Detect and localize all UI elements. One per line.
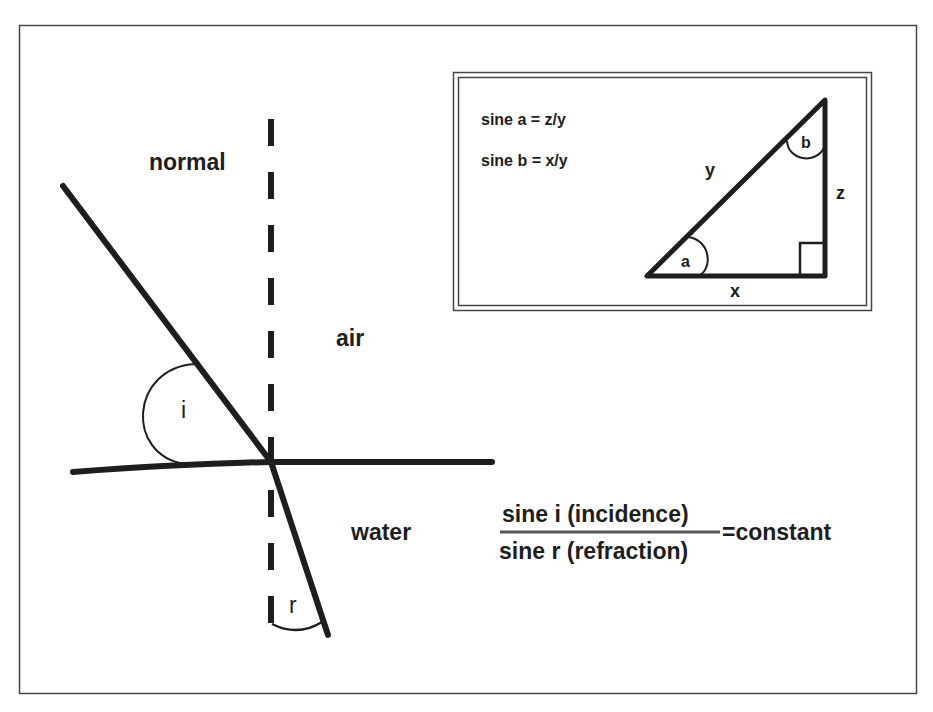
angle-i-arc	[143, 364, 195, 464]
triangle-label-a: a	[681, 253, 690, 270]
formula-equals: =constant	[722, 519, 832, 545]
label-normal: normal	[149, 149, 226, 175]
label-angle-i: i	[181, 397, 186, 423]
formula-numerator: sine i (incidence)	[502, 501, 689, 527]
inset-box: sine a = z/y sine b = x/y y z x a b	[454, 73, 872, 311]
water-surface-line	[73, 462, 492, 472]
angle-a-arc	[688, 237, 708, 276]
label-air: air	[336, 325, 364, 351]
refraction-diagram: normal air water i r sine i (incidence) …	[0, 0, 933, 712]
angle-r-arc	[272, 622, 322, 630]
label-water: water	[350, 519, 411, 545]
triangle-label-z: z	[836, 183, 845, 203]
refracted-ray	[271, 462, 328, 635]
formula-denominator: sine r (refraction)	[499, 538, 688, 564]
triangle-label-y: y	[705, 160, 715, 180]
triangle-label-b: b	[801, 134, 811, 151]
inset-equation-b: sine b = x/y	[481, 152, 568, 169]
right-angle-marker	[800, 243, 825, 276]
incident-ray	[63, 186, 271, 462]
right-triangle	[647, 100, 825, 276]
outer-frame	[20, 26, 917, 694]
label-angle-r: r	[289, 592, 297, 618]
inset-equation-a: sine a = z/y	[481, 111, 566, 128]
triangle-label-x: x	[730, 281, 740, 301]
